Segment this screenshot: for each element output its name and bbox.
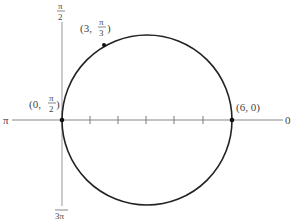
svg-text:(0,: (0, xyxy=(29,98,41,111)
label-pi-over-2-den: 2 xyxy=(58,12,63,22)
svg-text:3: 3 xyxy=(99,28,104,38)
right-point-label: (6, 0) xyxy=(236,101,260,114)
polar-diagram: π 0 π 2 3π (0, π 2 ) (3, π 3 ) (6, 0) xyxy=(0,0,291,221)
right-point xyxy=(230,118,235,123)
svg-text:π: π xyxy=(99,17,104,27)
label-pi-over-2-num: π xyxy=(58,1,63,11)
svg-text:2: 2 xyxy=(49,104,54,114)
label-zero-right: 0 xyxy=(285,114,291,126)
top-point-label: (3, π 3 ) xyxy=(80,17,111,38)
svg-text:(3,: (3, xyxy=(80,22,92,35)
top-point xyxy=(102,43,106,47)
svg-text:): ) xyxy=(56,98,60,111)
svg-text:π: π xyxy=(49,93,54,103)
origin-point xyxy=(60,118,65,123)
label-pi-left: π xyxy=(3,114,9,126)
svg-text:): ) xyxy=(107,22,111,35)
origin-label: (0, π 2 ) xyxy=(29,93,60,114)
label-3pi-bottom: 3π xyxy=(55,211,65,221)
